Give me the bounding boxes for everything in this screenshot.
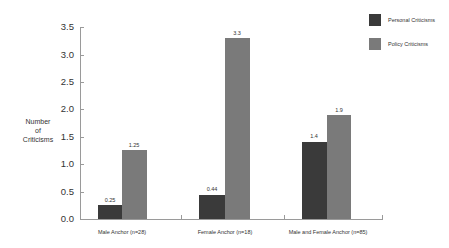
y-tick-label: 2.0	[50, 103, 74, 114]
category-label: Male Anchor (n=28)	[67, 229, 177, 235]
y-tick-label: 1.0	[50, 158, 74, 169]
y-tick-label: 3.5	[50, 21, 74, 32]
x-tick	[181, 215, 182, 219]
y-tick	[80, 109, 84, 110]
y-tick	[80, 164, 84, 165]
y-tick-label: 0.5	[50, 186, 74, 197]
y-tick	[80, 192, 84, 193]
y-tick	[80, 55, 84, 56]
value-label: 3.3	[222, 30, 252, 36]
bar-personal-mixed-anchor	[302, 142, 327, 219]
legend-label: Policy Criticisms	[388, 41, 428, 47]
bar-policy-female-anchor	[225, 38, 250, 219]
y-tick-label: 1.5	[50, 131, 74, 142]
x-tick	[382, 215, 383, 219]
legend-label: Personal Criticisms	[388, 17, 435, 23]
legend-swatch-personal	[369, 14, 381, 26]
category-label: Female Anchor (n=18)	[170, 229, 280, 235]
y-tick	[80, 82, 84, 83]
y-tick-label: 2.5	[50, 76, 74, 87]
y-axis-title-line: Number	[8, 117, 68, 126]
y-tick	[80, 137, 84, 138]
x-tick	[284, 215, 285, 219]
value-label: 1.25	[119, 142, 149, 148]
bar-personal-female-anchor	[199, 195, 225, 219]
category-label: Male and Female Anchor (n=85)	[273, 229, 383, 235]
y-tick-label: 0.0	[50, 213, 74, 224]
value-label: 1.4	[299, 133, 329, 139]
y-tick	[80, 27, 84, 28]
bar-personal-male-anchor	[98, 205, 122, 219]
bar-policy-mixed-anchor	[327, 115, 351, 219]
value-label: 1.9	[324, 107, 354, 113]
value-label: 0.25	[95, 197, 125, 203]
y-tick-label: 3.0	[50, 49, 74, 60]
legend-swatch-policy	[369, 38, 381, 50]
value-label: 0.44	[197, 186, 227, 192]
x-axis-line	[80, 219, 383, 220]
bar-policy-male-anchor	[122, 150, 147, 219]
